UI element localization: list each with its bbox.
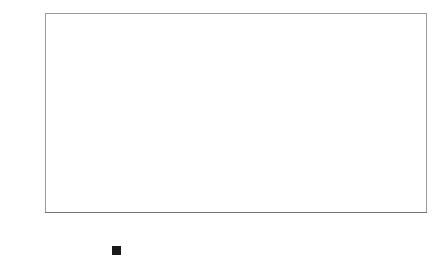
x-axis-line <box>45 212 427 213</box>
chart-title-clipped <box>0 0 443 4</box>
legend <box>112 246 128 255</box>
chart-figure <box>0 0 443 265</box>
legend-swatch-reference-scenario <box>112 246 121 255</box>
plot-area <box>45 13 427 212</box>
